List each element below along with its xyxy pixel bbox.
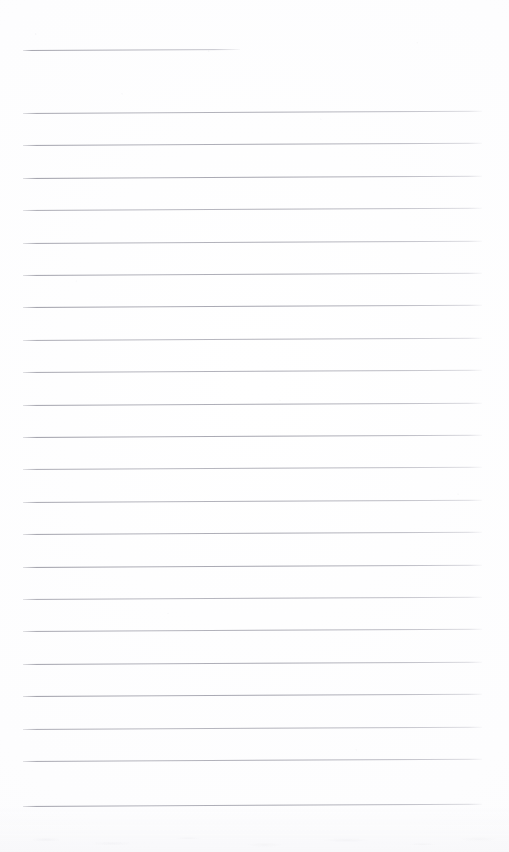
rule-line	[23, 694, 482, 697]
rule-line	[23, 759, 482, 762]
rule-line	[23, 370, 482, 373]
rule-line	[23, 662, 482, 665]
rule-line	[23, 500, 482, 503]
rule-line	[23, 305, 482, 308]
rule-line	[23, 435, 482, 438]
rule-line	[23, 629, 482, 632]
rule-line	[23, 564, 482, 567]
rule-line	[23, 402, 482, 405]
paper-surface	[0, 0, 509, 852]
rule-line	[23, 726, 482, 729]
rule-line	[23, 111, 482, 114]
scan-noise-texture	[0, 0, 509, 852]
bottom-scan-smudge	[0, 806, 509, 852]
rule-line	[23, 208, 482, 211]
rule-line	[23, 273, 482, 276]
rule-line	[23, 143, 482, 146]
rule-line	[23, 467, 482, 470]
rule-line	[23, 338, 482, 341]
rule-line	[23, 240, 482, 243]
header-rule-line	[23, 49, 240, 51]
rule-line	[23, 532, 482, 535]
rule-line	[23, 176, 482, 179]
rule-line	[23, 804, 482, 807]
rule-line	[23, 597, 482, 600]
scanned-page	[0, 0, 509, 852]
